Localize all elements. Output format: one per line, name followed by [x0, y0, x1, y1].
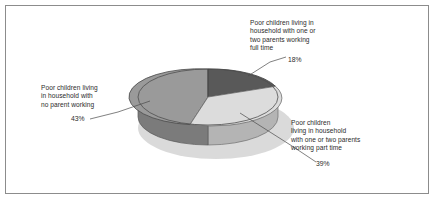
slice-label-no-parent-working: Poor children living in household with n…	[41, 84, 137, 109]
leader-line-full-time	[248, 57, 286, 76]
slice-percent-no-parent-working: 43%	[71, 115, 85, 123]
slice-percent-part-time: 39%	[316, 160, 330, 168]
chart-area: Poor children living in household with o…	[0, 0, 436, 201]
pie-chart-figure: Poor children living in household with o…	[0, 0, 436, 201]
slice-label-full-time: Poor children living in household with o…	[250, 19, 346, 52]
slice-percent-full-time: 18%	[288, 56, 302, 64]
slice-label-part-time: Poor children living in household with o…	[291, 119, 395, 152]
